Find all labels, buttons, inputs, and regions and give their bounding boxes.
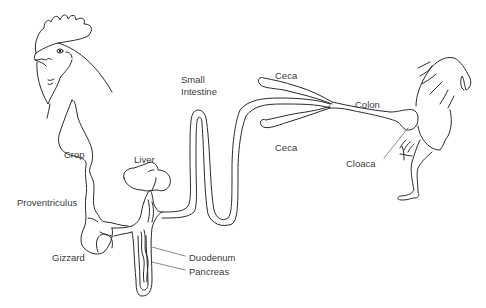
cloaca-leader-line [384, 128, 408, 158]
label-gizzard: Gizzard [52, 252, 85, 263]
label-ceca-top: Ceca [275, 70, 297, 81]
chicken-digestive-diagram: Small Intestine Ceca Colon Ceca Cloaca C… [0, 0, 486, 308]
liver-drawing [124, 162, 171, 191]
label-cloaca: Cloaca [346, 158, 376, 169]
label-liver: Liver [134, 154, 155, 165]
crop-proventriculus-gizzard-drawing [58, 100, 132, 254]
rooster-body-drawing [398, 58, 471, 200]
label-duodenum: Duodenum [189, 252, 235, 263]
label-crop: Crop [64, 149, 85, 160]
duodenum-leader-line [152, 247, 185, 256]
rooster-head-drawing [34, 15, 112, 118]
label-small-intestine-line2: Intestine [181, 86, 217, 97]
duodenum-pancreas-drawing [132, 190, 162, 296]
label-proventriculus: Proventriculus [17, 197, 77, 208]
label-colon: Colon [355, 99, 380, 110]
label-pancreas: Pancreas [189, 266, 229, 277]
label-small-intestine-line1: Small [181, 74, 205, 85]
pancreas-leader-line [152, 262, 185, 270]
label-ceca-bottom: Ceca [275, 142, 297, 153]
